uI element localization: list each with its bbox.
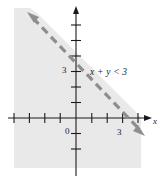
x-axis-label: x (153, 117, 157, 126)
shaded-solution-region (14, 8, 141, 168)
y-axis-tick-label-3: 3 (62, 66, 67, 75)
x-axis-tick-label-3: 3 (117, 128, 122, 137)
inequality-graph-figure: x 3 3 0 x + y < 3 (0, 0, 165, 185)
inequality-annotation-label: x + y < 3 (90, 68, 127, 78)
origin-label: 0 (65, 127, 70, 136)
graph-canvas (0, 0, 165, 185)
